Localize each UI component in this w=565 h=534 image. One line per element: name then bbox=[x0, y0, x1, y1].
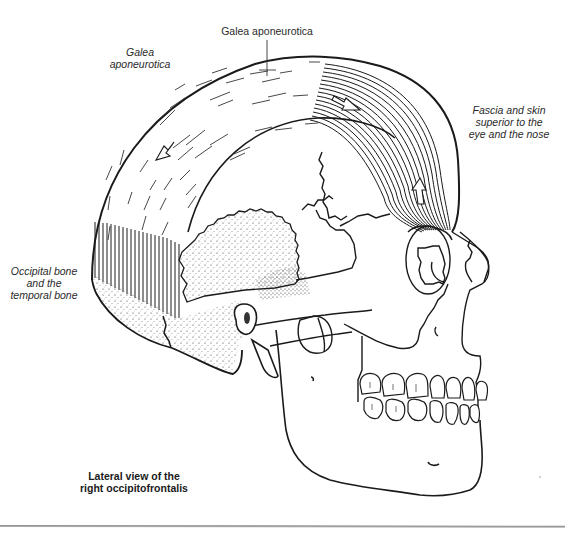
label-occipital-line2: and the bbox=[4, 277, 84, 289]
label-fascia-right: Fascia and skin superior to the eye and … bbox=[458, 104, 560, 140]
label-galea-left-line2: aponeurotica bbox=[100, 58, 180, 70]
figure-caption-line2: right occipitofrontalis bbox=[70, 482, 198, 494]
orbit bbox=[406, 226, 452, 294]
label-galea-top-text: Galea aponeurotica bbox=[221, 25, 313, 37]
external-ear-canal bbox=[234, 304, 256, 334]
label-galea-top: Galea aponeurotica bbox=[214, 25, 320, 37]
occipitofrontalis-diagram bbox=[0, 0, 565, 534]
teeth bbox=[360, 373, 487, 424]
temporal-squama bbox=[179, 209, 310, 302]
label-occipital-line1: Occipital bone bbox=[4, 265, 84, 277]
label-fascia-line3: eye and the nose bbox=[458, 128, 560, 140]
label-occipital-left: Occipital bone and the temporal bone bbox=[4, 265, 84, 301]
figure-caption: Lateral view of the right occipitofronta… bbox=[70, 470, 198, 494]
label-galea-left: Galea aponeurotica bbox=[100, 46, 180, 70]
label-fascia-line1: Fascia and skin bbox=[458, 104, 560, 116]
label-galea-left-line1: Galea bbox=[100, 46, 180, 58]
figure-caption-line1: Lateral view of the bbox=[70, 470, 198, 482]
label-fascia-line2: superior to the bbox=[458, 116, 560, 128]
label-occipital-line3: temporal bone bbox=[4, 289, 84, 301]
